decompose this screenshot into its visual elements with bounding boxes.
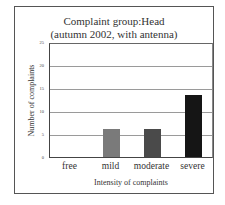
y-tick-label: 25	[30, 40, 44, 45]
y-tick-label: 20	[30, 63, 44, 68]
x-tick-label: mild	[89, 161, 133, 171]
x-tick-label: moderate	[130, 161, 174, 171]
chart-subtitle: (autumn 2002, with antenna)	[14, 28, 214, 41]
x-axis-label: Intensity of complaints	[49, 178, 213, 187]
y-axis-label: Number of complaints	[27, 46, 36, 156]
gridline	[50, 66, 212, 67]
y-tick-label: 5	[30, 132, 44, 137]
y-tick-label: 0	[30, 155, 44, 160]
y-tick-label: 15	[30, 86, 44, 91]
x-tick-label: severe	[171, 161, 215, 171]
bar-severe	[185, 95, 202, 157]
gridline	[50, 89, 212, 90]
bar-mild	[103, 129, 120, 157]
plot-area	[49, 43, 213, 158]
chart-title: Complaint group:Head	[14, 15, 214, 28]
x-tick-label: free	[48, 161, 92, 171]
y-tick-label: 10	[30, 109, 44, 114]
bar-moderate	[144, 129, 161, 157]
